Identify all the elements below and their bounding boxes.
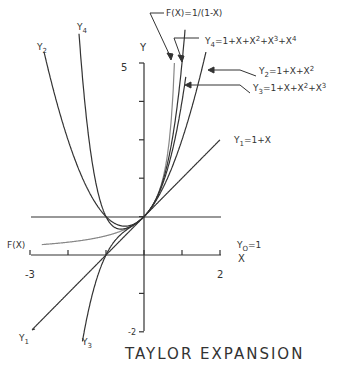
arrowhead-y4 [178, 55, 184, 62]
tick-label-5: 5 [121, 62, 127, 73]
taylor-chart: Y X 5 -2 -3 2 Y2 Y4 Y1 Y3 F(X) YO=1 Y1=1… [0, 0, 337, 369]
arrowhead-fx [167, 53, 173, 60]
label-y2: Y2 [36, 42, 47, 55]
label-y0: YO=1 [236, 240, 261, 253]
tick-label-2: 2 [217, 269, 223, 280]
ticks [30, 63, 220, 332]
label-fx-eq: F(X)=1/(1-X) [166, 8, 222, 18]
label-y1-eq: Y1=1+X [233, 135, 271, 148]
tick-label-minus-2: -2 [128, 328, 136, 337]
y1-tail [32, 329, 35, 330]
label-y4-eq: Y4=1+X+X2+X3+X4 [204, 35, 297, 49]
label-y1: Y1 [18, 333, 29, 346]
arrowhead-y3 [185, 82, 191, 88]
label-y3-eq: Y3=1+X+X2+X3 [252, 82, 326, 96]
chart-title: TAYLOR EXPANSION [125, 345, 304, 363]
curve-y1 [32, 140, 220, 330]
arrowhead-y2 [208, 67, 214, 73]
leader-y4 [174, 38, 199, 60]
leader-fx [150, 13, 171, 58]
leader-y2 [211, 70, 256, 76]
label-y3: Y3 [81, 337, 92, 350]
curve-y2 [44, 52, 206, 226]
leader-lines [150, 13, 256, 93]
label-fx: F(X) [7, 240, 25, 250]
curve-y4 [79, 30, 185, 229]
tick-label-minus-3: -3 [25, 269, 35, 280]
curve-y3 [82, 77, 185, 342]
x-axis-label: X [238, 253, 245, 264]
curves [32, 30, 220, 342]
label-y4: Y4 [76, 22, 88, 35]
y-axis-label: Y [139, 42, 147, 53]
label-y2-eq: Y2=1+X+X2 [258, 65, 314, 79]
